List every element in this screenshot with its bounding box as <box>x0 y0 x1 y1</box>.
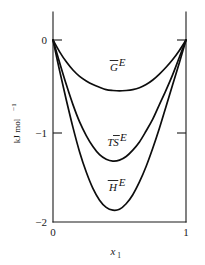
curve-label-g-base: G <box>110 61 118 73</box>
y-tick-marks <box>53 40 186 133</box>
y-axis-title: kJ mol −1 <box>10 103 22 143</box>
y-tick-label-minus1: −1 <box>35 127 47 139</box>
x-axis-title: x 1 <box>110 245 122 260</box>
curve-label-h-superscript: E <box>118 176 126 188</box>
curve-label-g: G E <box>110 56 126 73</box>
y-tick-label-minus2: −2 <box>35 216 47 228</box>
x-axis-title-base: x <box>110 245 116 257</box>
curve-label-h: H E <box>108 176 126 193</box>
plot-frame <box>53 12 186 222</box>
x-tick-label-0: 0 <box>50 226 56 238</box>
y-axis-title-superscript: −1 <box>10 103 18 111</box>
curve-label-g-superscript: E <box>118 56 126 68</box>
x-tick-label-1: 1 <box>183 226 189 238</box>
x-axis-title-subscript: 1 <box>117 251 121 260</box>
excess-properties-chart: 0 −1 −2 0 1 x 1 kJ mol −1 G E TS <box>0 0 205 265</box>
y-axis-title-base: kJ mol <box>12 118 22 143</box>
curve-label-h-base: H <box>108 181 118 193</box>
curve-label-ts-base: TS <box>107 136 119 148</box>
figure-container: 0 −1 −2 0 1 x 1 kJ mol −1 G E TS <box>0 0 205 265</box>
curve-label-ts: TS E <box>107 131 127 148</box>
y-tick-label-0: 0 <box>42 34 48 46</box>
curve-label-ts-superscript: E <box>119 131 127 143</box>
